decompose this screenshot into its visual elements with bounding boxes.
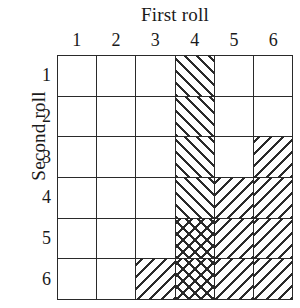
row-tick-5: 5 <box>29 218 53 259</box>
grid-cell-5-5 <box>215 219 254 260</box>
row-tick-4: 4 <box>29 177 53 218</box>
grid-cell-6-2 <box>254 97 293 138</box>
grid-cell-1-2 <box>58 97 97 138</box>
grid-cell-1-4 <box>58 178 97 219</box>
grid-cell-3-4 <box>136 178 175 219</box>
col-tick-5: 5 <box>214 28 253 52</box>
row-tick-3: 3 <box>29 137 53 178</box>
grid-cell-4-1 <box>176 56 215 97</box>
grid-cell-2-4 <box>97 178 136 219</box>
grid-cell-2-3 <box>97 137 136 178</box>
col-tick-6: 6 <box>254 28 293 52</box>
first-roll-tick-labels: 1 2 3 4 5 6 <box>57 28 293 52</box>
grid-cell-1-5 <box>58 219 97 260</box>
col-tick-4: 4 <box>175 28 214 52</box>
row-tick-6: 6 <box>29 259 53 300</box>
grid-cell-4-6 <box>176 259 215 300</box>
grid-cell-4-2 <box>176 97 215 138</box>
grid-cell-3-3 <box>136 137 175 178</box>
grid-cell-4-4 <box>176 178 215 219</box>
grid-cell-6-6 <box>254 259 293 300</box>
first-roll-axis-title: First roll <box>57 4 293 26</box>
grid-cell-3-1 <box>136 56 175 97</box>
grid-cell-2-1 <box>97 56 136 97</box>
grid-cell-5-3 <box>215 137 254 178</box>
grid-cell-3-5 <box>136 219 175 260</box>
grid-cell-6-5 <box>254 219 293 260</box>
grid-cell-6-1 <box>254 56 293 97</box>
grid-cell-1-1 <box>58 56 97 97</box>
grid-cell-6-4 <box>254 178 293 219</box>
grid-cell-1-3 <box>58 137 97 178</box>
grid-cell-2-2 <box>97 97 136 138</box>
grid-cell-6-3 <box>254 137 293 178</box>
grid-cell-4-3 <box>176 137 215 178</box>
grid-cell-5-6 <box>215 259 254 300</box>
col-tick-2: 2 <box>96 28 135 52</box>
grid-cell-1-6 <box>58 259 97 300</box>
grid-cell-5-4 <box>215 178 254 219</box>
grid-cell-3-6 <box>136 259 175 300</box>
col-tick-1: 1 <box>57 28 96 52</box>
grid-cell-2-6 <box>97 259 136 300</box>
row-tick-2: 2 <box>29 96 53 137</box>
grid-cell-4-5 <box>176 219 215 260</box>
dice-outcome-grid-figure: First roll 1 2 3 4 5 6 Second roll 1 2 3… <box>0 0 300 308</box>
row-tick-1: 1 <box>29 55 53 96</box>
second-roll-tick-labels: 1 2 3 4 5 6 <box>29 55 53 300</box>
grid-cell-2-5 <box>97 219 136 260</box>
grid-cell-3-2 <box>136 97 175 138</box>
grid-cell-5-1 <box>215 56 254 97</box>
grid-cell-5-2 <box>215 97 254 138</box>
outcome-grid <box>57 55 293 300</box>
col-tick-3: 3 <box>136 28 175 52</box>
